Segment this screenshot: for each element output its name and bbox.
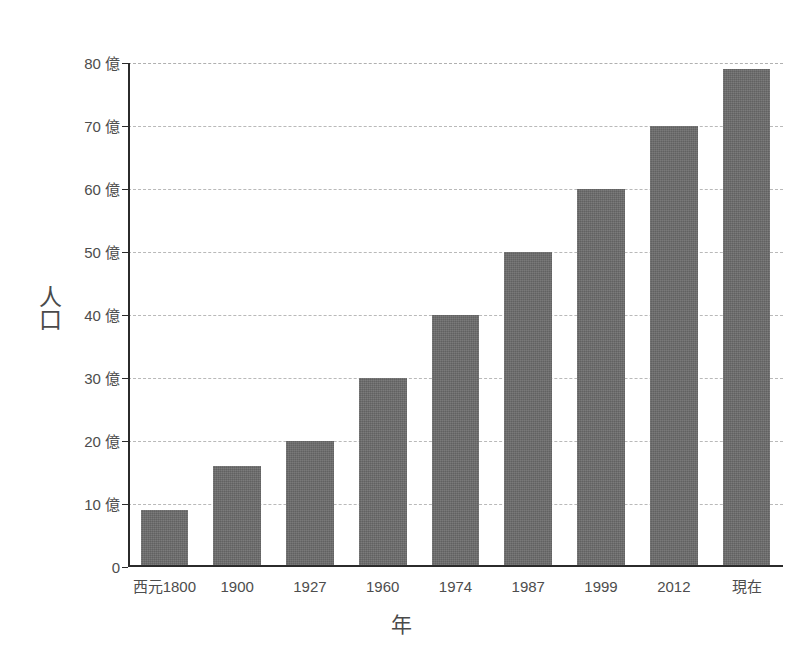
x-axis-title: 年 xyxy=(0,612,803,638)
y-axis-tick-mark xyxy=(122,567,128,568)
y-axis-tick-label: 70 億 xyxy=(58,119,120,134)
x-axis-tick-label: 1960 xyxy=(346,578,419,596)
x-axis-tick-label: 1927 xyxy=(274,578,347,596)
x-axis-tick-label: 1974 xyxy=(419,578,492,596)
x-axis-tick-label-group: 西元18001900192719601974198719992012現在 xyxy=(128,578,783,602)
plot-area xyxy=(128,63,783,567)
x-axis-tick-label: 1999 xyxy=(565,578,638,596)
x-axis-tick-label: 2012 xyxy=(637,578,710,596)
x-axis-tick-label: 西元1800 xyxy=(128,578,201,596)
y-axis-tick-label-group: 010 億20 億30 億40 億50 億60 億70 億80 億 xyxy=(58,55,120,575)
y-axis-tick-label: 40 億 xyxy=(58,308,120,323)
x-axis-tick-label: 1900 xyxy=(201,578,274,596)
y-axis-tick-label: 60 億 xyxy=(58,182,120,197)
y-axis-title: 人口 xyxy=(28,285,62,331)
y-axis-tick-label: 50 億 xyxy=(58,245,120,260)
x-axis-tick-label: 1987 xyxy=(492,578,565,596)
y-axis-tick-label: 80 億 xyxy=(58,56,120,71)
x-axis-tick-label: 現在 xyxy=(710,578,783,596)
y-axis-tick-label: 10 億 xyxy=(58,497,120,512)
y-axis-tick-label: 30 億 xyxy=(58,371,120,386)
y-axis-tick-label: 20 億 xyxy=(58,434,120,449)
y-axis-tick-label: 0 xyxy=(58,560,120,575)
population-bar-chart: 人口 010 億20 億30 億40 億50 億60 億70 億80 億 西元1… xyxy=(0,0,803,664)
plot-axes-frame xyxy=(128,63,783,567)
